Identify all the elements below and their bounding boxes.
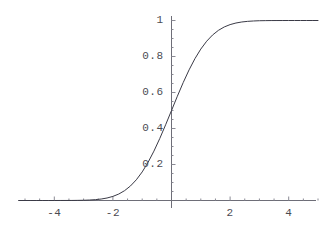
data-series-line: [19, 21, 318, 201]
y-axis-tick-label: 0.6: [122, 86, 164, 98]
axes-group: [18, 16, 316, 208]
x-axis-tick-label: -4: [34, 207, 74, 219]
x-axis-tick-label: -2: [93, 207, 133, 219]
x-axis-tick-label: 2: [210, 207, 250, 219]
x-axis-tick-label: 4: [269, 207, 309, 219]
plot-canvas: [0, 0, 335, 234]
y-axis-tick-label: 0.8: [122, 50, 164, 62]
y-axis-tick-label: 0.4: [122, 122, 164, 134]
y-axis-tick-label: 0.2: [122, 158, 164, 170]
chart-figure: -4-224 0.20.40.60.81: [0, 0, 335, 234]
y-axis-tick-label: 1: [122, 14, 164, 26]
